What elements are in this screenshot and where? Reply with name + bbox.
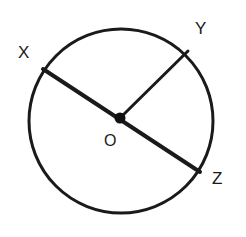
point-label-y: Y (195, 20, 207, 37)
center-point-dot (115, 113, 126, 124)
segment-radius-oy (120, 51, 188, 118)
point-label-x: X (18, 44, 30, 61)
geometry-drawing (0, 0, 246, 237)
center-label-o: O (104, 133, 117, 149)
circle-diagram-canvas: X Y Z O (0, 0, 246, 237)
point-label-z: Z (212, 170, 223, 187)
